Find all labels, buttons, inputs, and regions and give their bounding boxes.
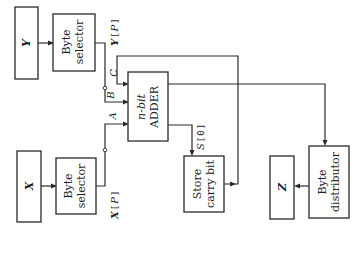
signal-label-c: C — [108, 69, 119, 77]
distributor-line1: Byte — [316, 169, 329, 194]
byte-distributor-block: Byte distributor — [309, 146, 349, 218]
svg-text:X[P]: X[P] — [109, 191, 120, 220]
x-p-close: ] — [110, 191, 120, 196]
x-p-open: [ — [110, 205, 120, 210]
signal-label-s-0: S[0] — [195, 124, 206, 150]
wire-x-to-selector — [41, 184, 57, 189]
wire-y-to-selector — [38, 41, 54, 46]
y-selector-line2: selector — [73, 19, 86, 64]
x-p-index: P — [109, 197, 120, 205]
y-byte-selector-block: Byte selector — [53, 14, 95, 71]
y-input-block: Y — [15, 7, 38, 79]
wire-x-selector-to-adder-a — [96, 122, 129, 187]
adder-line2: ADDER — [148, 85, 161, 129]
y-p-var: Y — [109, 38, 120, 46]
x-byte-selector-block: Byte selector — [56, 158, 96, 214]
z-output-label: Z — [276, 182, 289, 192]
wire-distributor-to-z — [294, 184, 309, 189]
s-0-var: S — [195, 143, 206, 150]
adder-block-diagram: Y Byte selector X Byte selector n-bit AD… — [0, 0, 355, 255]
x-selector-line2: selector — [75, 163, 88, 208]
signal-label-a: A — [107, 112, 118, 120]
s-0-close: ] — [196, 124, 206, 129]
x-p-var: X — [109, 210, 120, 220]
adder-line1: n-bit — [135, 94, 148, 120]
y-selector-line1: Byte — [60, 29, 73, 54]
signal-label-y-p: Y[P] — [109, 18, 120, 46]
x-input-label: X — [23, 181, 36, 191]
z-output-block: Z — [270, 156, 294, 219]
x-input-block: X — [17, 151, 41, 222]
store-carry-line1: Store — [191, 169, 204, 199]
adder-block: n-bit ADDER — [128, 72, 168, 141]
y-p-open: [ — [110, 32, 120, 37]
y-p-close: ] — [110, 18, 120, 23]
svg-text:S[0]: S[0] — [195, 124, 206, 150]
y-input-label: Y — [20, 38, 33, 47]
s-0-index: 0 — [196, 130, 206, 135]
s-0-open: [ — [196, 137, 206, 142]
x-selector-line1: Byte — [62, 173, 75, 198]
junction-dot — [103, 148, 107, 152]
store-carry-line2: carry bit — [204, 159, 217, 208]
signal-label-x-p: X[P] — [109, 191, 120, 220]
distributor-line2: distributor — [329, 151, 342, 212]
svg-text:Y[P]: Y[P] — [109, 18, 120, 46]
junction-dot — [103, 86, 107, 90]
signal-label-b: B — [105, 91, 116, 99]
wire-adder-to-store-carry — [168, 125, 195, 156]
y-p-index: P — [109, 24, 120, 32]
store-carry-block: Store carry bit — [184, 156, 224, 212]
